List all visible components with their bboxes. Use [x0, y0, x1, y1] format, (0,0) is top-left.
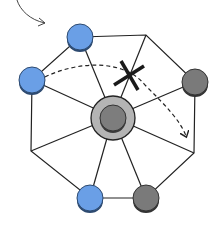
gray-piece-right-upper[interactable]: [182, 69, 208, 97]
curved-pointer-arrow-icon: [17, 0, 45, 26]
center-hub[interactable]: [91, 96, 135, 140]
gray-piece-bottom-right[interactable]: [133, 185, 159, 213]
game-board-diagram: [0, 0, 217, 225]
blue-piece-bottom-left[interactable]: [77, 185, 103, 213]
blue-piece-top-left[interactable]: [67, 24, 93, 52]
blocked-cross-icon: [114, 61, 144, 90]
blue-piece-left-upper[interactable]: [19, 67, 45, 95]
